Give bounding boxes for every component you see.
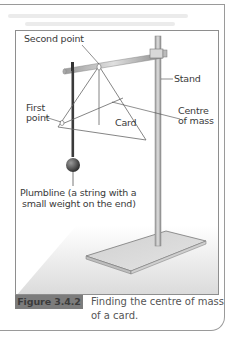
label-card: Card [115,117,136,128]
faded-text-line [8,14,188,18]
faded-text-line [25,22,175,26]
stand-rod [155,36,161,246]
label-centre-of-mass-line2: of mass [178,115,214,126]
label-stand: Stand [174,73,201,84]
stand-arm [64,53,163,74]
boss-clamp [150,49,163,58]
leader-second-point [82,45,99,64]
label-first-point-line2: point [26,112,49,123]
centre-of-mass-diagram [16,31,219,295]
label-second-point: Second point [24,33,84,44]
label-plumbline-line2: small weight on the end) [22,198,136,209]
plumbline-string [72,70,75,157]
card [58,66,146,140]
figure-number-tag: Figure 3.4.2 [15,295,83,309]
figure-caption: Finding the centre of mass of a card. [91,295,231,323]
plumb-bob [66,158,80,172]
label-plumbline-line1: Plumbline (a string with a [20,187,136,198]
figure-panel: Second point Stand First point Card Cent… [15,30,219,295]
